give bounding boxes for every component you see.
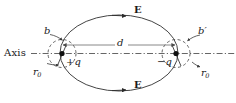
- r0-leader-left-group: [47, 64, 59, 66]
- field-line-ellipse: [60, 15, 178, 91]
- field-direction-arrow-bottom: [112, 90, 126, 91]
- field-line-ellipse-group: [60, 15, 178, 91]
- negative-charge-dot: [173, 51, 178, 56]
- dipole-field-figure: Axis E E d +q −q b b′ r0 r0: [0, 0, 236, 103]
- r0-leader-right-group: [192, 62, 200, 67]
- r0-left-leader-line: [47, 64, 59, 66]
- r0-right-leader-line: [192, 62, 200, 67]
- impact-parameter-right-group: [188, 35, 201, 41]
- positive-charge-dot: [59, 51, 64, 56]
- b-prime-leader-line: [188, 35, 201, 41]
- figure-canvas: [0, 0, 236, 103]
